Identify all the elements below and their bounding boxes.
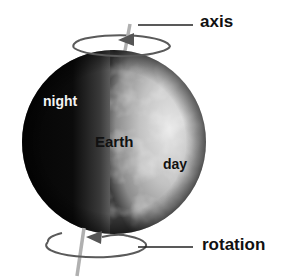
earth-label: Earth	[95, 134, 133, 149]
rotation-label: rotation	[202, 236, 265, 253]
earth-rotation-diagram: axis rotation night Earth day	[0, 0, 289, 279]
night-label: night	[43, 94, 77, 108]
day-label: day	[163, 157, 187, 171]
axis-label: axis	[200, 13, 233, 30]
axis-line-bottom	[77, 228, 84, 276]
bottom-rotation-ring	[46, 231, 146, 257]
rotation-arrowhead-bottom-icon	[86, 231, 102, 244]
